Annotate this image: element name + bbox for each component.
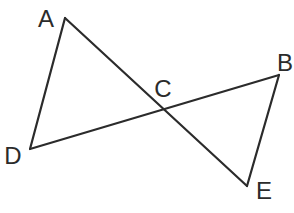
point-label-a: A — [38, 5, 54, 32]
segments — [30, 18, 279, 186]
geometry-diagram: A B C D E — [0, 0, 294, 213]
segment-AE — [65, 18, 247, 186]
segment-BE — [247, 75, 279, 186]
point-label-c: C — [154, 75, 171, 102]
segment-AD — [30, 18, 65, 149]
point-label-d: D — [4, 142, 21, 169]
point-label-b: B — [277, 49, 293, 76]
point-label-e: E — [256, 177, 272, 204]
